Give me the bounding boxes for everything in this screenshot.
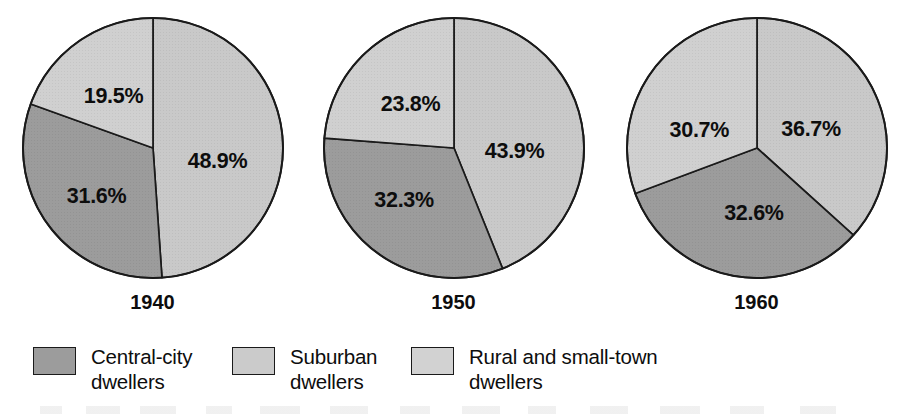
- legend-label-rural-line2: dwellers: [469, 369, 658, 394]
- legend-label-suburban-line2: dwellers: [290, 369, 377, 394]
- pie-year-label-1950: 1950: [431, 291, 476, 314]
- pie-svg-1950: [320, 14, 588, 282]
- pie-slice-label: 19.5%: [84, 84, 143, 109]
- legend-label-suburban: Suburban dwellers: [290, 344, 377, 394]
- pie-slice-label: 43.9%: [485, 138, 544, 163]
- pie-chart-1940: 48.9%31.6%19.5% 1940: [0, 0, 305, 330]
- pie-year-label-1940: 1940: [130, 291, 175, 314]
- pie-year-label-1960: 1960: [734, 291, 779, 314]
- pie-svg-1960: [623, 14, 891, 282]
- legend-label-central-city-line1: Central-city: [91, 345, 192, 368]
- legend-label-rural: Rural and small-town dwellers: [469, 344, 658, 394]
- pie-slice-label: 31.6%: [67, 184, 126, 209]
- legend-label-suburban-line1: Suburban: [290, 345, 377, 368]
- pie-chart-figure: 48.9%31.6%19.5% 1940 43.9%32.3%23.8% 195…: [0, 0, 914, 417]
- chart-legend: Central-city dwellers Suburban dwellers …: [0, 344, 914, 400]
- legend-swatch-rural: [411, 347, 454, 375]
- legend-label-central-city-line2: dwellers: [91, 369, 192, 394]
- legend-label-central-city: Central-city dwellers: [91, 344, 192, 394]
- pie-canvas-1940: 48.9%31.6%19.5%: [19, 14, 287, 282]
- pie-chart-1950: 43.9%32.3%23.8% 1950: [301, 0, 606, 330]
- legend-swatch-suburban: [232, 347, 275, 375]
- legend-label-rural-line1: Rural and small-town: [469, 345, 658, 368]
- pie-canvas-1960: 36.7%32.6%30.7%: [623, 14, 891, 282]
- scan-artifact: [0, 406, 914, 414]
- legend-swatch-central-city: [33, 347, 76, 375]
- pie-chart-1960: 36.7%32.6%30.7% 1960: [604, 0, 909, 330]
- pie-slice-label: 48.9%: [188, 149, 247, 174]
- pie-slice-label: 32.3%: [374, 188, 433, 213]
- legend-item-rural: Rural and small-town dwellers: [411, 344, 658, 394]
- legend-item-central-city: Central-city dwellers: [33, 344, 192, 394]
- legend-item-suburban: Suburban dwellers: [232, 344, 377, 394]
- pie-slice-label: 32.6%: [724, 201, 783, 226]
- pie-slice-label: 36.7%: [781, 116, 840, 141]
- pie-slice-label: 30.7%: [670, 117, 729, 142]
- pie-slice-label: 23.8%: [381, 91, 440, 116]
- pie-canvas-1950: 43.9%32.3%23.8%: [320, 14, 588, 282]
- pie-slice-texture: [324, 18, 454, 148]
